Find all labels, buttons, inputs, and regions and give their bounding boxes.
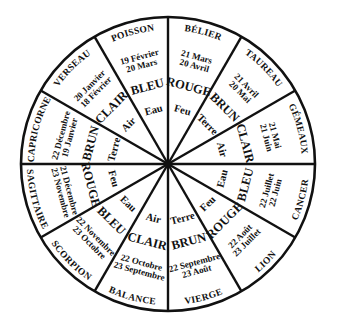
wheel-hub (165, 161, 171, 167)
zodiac-wheel: BÉLIER21 Mars20 AvrilROUGEFeuTAUREAU21 A… (0, 0, 338, 326)
